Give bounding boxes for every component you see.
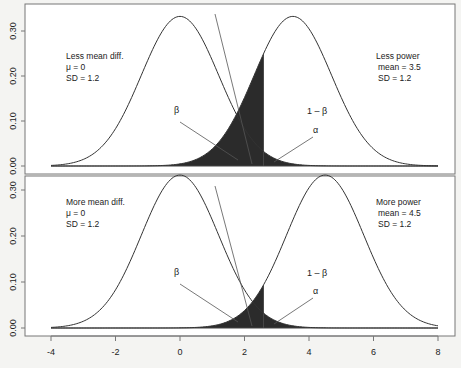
beta-label: β [174,267,179,277]
left-annotation: Less mean diff. [66,51,124,61]
right-annotation: Less power [376,51,420,61]
y-tick-label: 0.20 [8,67,18,85]
x-tick-label: 0 [177,347,182,357]
right-annotation: mean = 4.5 [378,208,421,218]
left-annotation: μ = 0 [66,208,86,218]
y-tick-label: 0.10 [8,273,18,291]
power-label: 1 – β [307,268,327,278]
left-annotation: SD = 1.2 [66,73,100,83]
beta-label: β [174,105,179,115]
top-panel: 0.000.100.200.30Less mean diff.μ = 0SD =… [8,4,455,175]
alpha-label: α [313,125,318,135]
x-tick-label: 6 [371,347,376,357]
x-tick-label: -2 [111,347,119,357]
x-tick-label: 8 [435,347,440,357]
right-annotation: SD = 1.2 [378,219,412,229]
left-annotation: μ = 0 [66,62,86,72]
x-tick-label: 2 [242,347,247,357]
y-tick-label: 0.30 [8,22,18,40]
y-tick-label: 0.20 [8,227,18,245]
y-tick-label: 0.30 [8,181,18,199]
right-annotation: mean = 3.5 [378,62,421,72]
power-label: 1 – β [307,106,327,116]
power-comparison-chart: 0.000.100.200.30Less mean diff.μ = 0SD =… [0,0,461,368]
right-annotation: SD = 1.2 [378,73,412,83]
y-tick-label: 0.10 [8,112,18,130]
y-tick-label: 0.00 [8,319,18,337]
x-axis: -4-202468 [47,336,441,357]
y-tick-label: 0.00 [8,157,18,175]
left-annotation: More mean diff. [66,197,125,207]
x-tick-label: -4 [47,347,55,357]
right-annotation: More power [376,197,421,207]
left-annotation: SD = 1.2 [66,219,100,229]
bottom-panel: 0.000.100.200.30More mean diff.μ = 0SD =… [8,175,455,337]
alpha-label: α [313,286,318,296]
x-tick-label: 4 [306,347,311,357]
